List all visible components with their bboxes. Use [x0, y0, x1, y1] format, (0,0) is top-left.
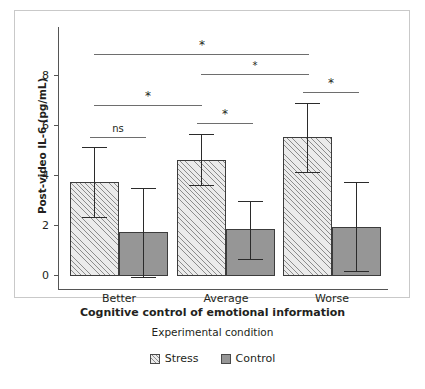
errorbar-average-control-cap-lower	[238, 259, 263, 260]
legend-item-control[interactable]: Control	[221, 352, 276, 365]
errorbar-better-stress-stem	[94, 147, 95, 218]
y-tick-label-6: 6	[29, 119, 49, 132]
x-axis-label: Cognitive control of emotional informati…	[0, 306, 425, 319]
significance-label-average-stress-vs-control: *	[195, 109, 255, 119]
legend: Stress Control	[0, 352, 425, 365]
errorbar-worse-control-stem	[356, 182, 357, 271]
y-tick-0	[54, 275, 59, 276]
significance-line-better-stress-vs-control	[90, 137, 146, 138]
x-tick-label-worse: Worse	[282, 292, 382, 305]
errorbar-worse-stress-cap-lower	[295, 172, 320, 173]
legend-swatch-stress-icon	[150, 354, 160, 364]
errorbar-worse-stress-stem	[307, 103, 308, 172]
legend-item-stress[interactable]: Stress	[150, 352, 199, 365]
y-tick-label-2: 2	[29, 219, 49, 232]
legend-label-control: Control	[236, 352, 276, 365]
x-tick-label-average: Average	[176, 292, 276, 305]
errorbar-average-stress-stem	[201, 134, 202, 185]
errorbar-better-control-stem	[143, 188, 144, 277]
figure-container: Post-video IL-6 (pg/mL) 0 2 4 6 8	[0, 0, 425, 389]
y-tick-6	[54, 125, 59, 126]
x-axis-line	[58, 289, 388, 290]
significance-label-worse-stress-vs-control: *	[301, 78, 361, 88]
y-tick-4	[54, 175, 59, 176]
legend-title: Experimental condition	[0, 326, 425, 338]
y-tick-8	[54, 75, 59, 76]
significance-label-better-vs-worse-stress: *	[172, 40, 232, 50]
y-axis-label: Post-video IL-6 (pg/mL)	[36, 66, 48, 226]
legend-label-stress: Stress	[165, 352, 199, 365]
y-tick-2	[54, 225, 59, 226]
y-tick-label-0: 0	[29, 269, 49, 282]
legend-swatch-control-icon	[221, 354, 231, 364]
significance-line-average-stress-vs-control	[197, 123, 253, 124]
errorbar-average-control-stem	[250, 201, 251, 259]
significance-line-better-vs-average-stress	[94, 105, 202, 106]
significance-line-better-vs-worse-stress	[94, 54, 309, 55]
y-tick-label-4: 4	[29, 169, 49, 182]
errorbar-average-stress-cap-upper	[189, 134, 214, 135]
significance-line-average-vs-worse-stress	[201, 74, 309, 75]
errorbar-average-control-cap-upper	[238, 201, 263, 202]
errorbar-average-stress-cap-lower	[189, 185, 214, 186]
significance-label-better-stress-vs-control: ns	[88, 124, 148, 134]
significance-label-average-vs-worse-stress: *	[225, 61, 285, 71]
y-axis-line	[58, 27, 59, 289]
y-tick-label-8: 8	[29, 69, 49, 82]
errorbar-worse-control-cap-lower	[344, 271, 369, 272]
errorbar-better-control-cap-lower	[131, 277, 156, 278]
errorbar-worse-control-cap-upper	[344, 182, 369, 183]
errorbar-worse-stress-cap-upper	[295, 103, 320, 104]
significance-line-worse-stress-vs-control	[303, 92, 359, 93]
x-tick-label-better: Better	[69, 292, 169, 305]
errorbar-better-stress-cap-upper	[82, 147, 107, 148]
significance-label-better-vs-average-stress: *	[118, 91, 178, 101]
errorbar-better-control-cap-upper	[131, 188, 156, 189]
errorbar-better-stress-cap-lower	[82, 217, 107, 218]
